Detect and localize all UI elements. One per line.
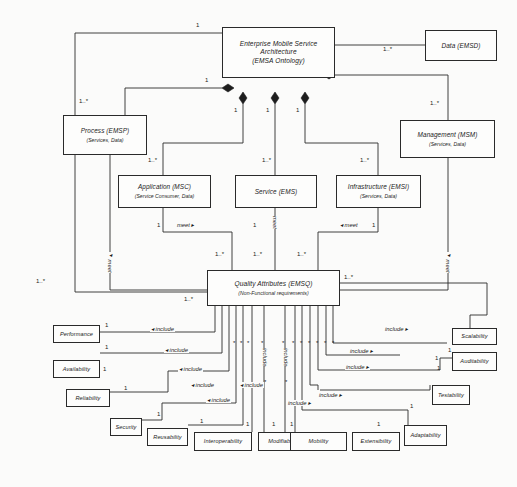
mult-quality-in-service: 1..* bbox=[253, 251, 262, 257]
mult-process-top: 1..* bbox=[79, 98, 88, 104]
assoc-include-reliability: ◂ include bbox=[178, 366, 203, 372]
node-security[interactable]: Security bbox=[110, 418, 142, 436]
mult-availability: 1 bbox=[105, 344, 108, 350]
mult-frame-left-bottom: 1..* bbox=[36, 278, 45, 284]
assoc-meet-service: meet bbox=[271, 216, 279, 229]
node-availability[interactable]: Availability bbox=[53, 360, 100, 378]
mult-performance: 1 bbox=[105, 322, 108, 328]
assoc-meet-infrastructure: ◂ meet bbox=[339, 222, 359, 228]
mult-root-left-2: 1 bbox=[205, 77, 208, 83]
node-data-emsd[interactable]: Data (EMSD) bbox=[425, 30, 497, 61]
assoc-meet-process: ◂ meet bbox=[106, 252, 114, 273]
node-reliability[interactable]: Reliability bbox=[66, 389, 110, 407]
node-infrastructure-emsi[interactable]: Infrastructure (EMSI) (Services, Data) bbox=[336, 175, 421, 208]
mult-star-1: * bbox=[233, 340, 235, 346]
node-reusability[interactable]: Reusability bbox=[147, 428, 188, 446]
node-title: Application (MSC) bbox=[138, 183, 191, 191]
mult-scalability: 1 bbox=[448, 347, 451, 353]
mult-extensibility: 1 bbox=[377, 421, 380, 427]
node-title: Security bbox=[115, 424, 136, 431]
mult-star-8: * bbox=[308, 340, 310, 346]
node-service-ems[interactable]: Service (EMS) bbox=[235, 175, 317, 208]
assoc-meet-application: meet ▸ bbox=[176, 222, 196, 228]
node-title: Management (MSM) bbox=[418, 131, 478, 139]
mult-root-top-left: 1 bbox=[196, 22, 199, 28]
mult-auditability: 1 bbox=[435, 355, 438, 361]
node-title: Auditability bbox=[460, 358, 488, 365]
node-emsa-root[interactable]: Enterprise Mobile Service Architecture (… bbox=[222, 27, 335, 78]
node-title: Process (EMSP) bbox=[81, 127, 130, 135]
mult-star-2: * bbox=[240, 340, 242, 346]
node-performance[interactable]: Performance bbox=[53, 325, 100, 343]
mult-star-9: * bbox=[316, 340, 318, 346]
mult-star-6: * bbox=[292, 340, 294, 346]
node-management-msm[interactable]: Management (MSM) (Services, Data) bbox=[400, 120, 495, 158]
node-subtitle: (Service Consumer, Data) bbox=[135, 193, 195, 200]
mult-infrastructure-top: 1..* bbox=[360, 157, 369, 163]
node-application-msc[interactable]: Application (MSC) (Service Consumer, Dat… bbox=[118, 175, 211, 208]
mult-security: 1 bbox=[157, 411, 160, 417]
node-title: Performance bbox=[60, 331, 93, 338]
assoc-include-reusability: ◂ include bbox=[206, 397, 231, 403]
node-subtitle: (EMSA Ontology) bbox=[252, 57, 305, 65]
mult-management-top: 1..* bbox=[430, 100, 439, 106]
mult-mobility: 1 bbox=[290, 421, 293, 427]
node-title: Extensibility bbox=[361, 438, 392, 445]
assoc-include-performance: ◂ include bbox=[150, 326, 175, 332]
mult-quality-left-bottom: 1..* bbox=[184, 296, 193, 302]
node-title: Interoperability bbox=[204, 438, 242, 445]
mult-star-5: * bbox=[282, 340, 284, 346]
mult-infra-meet-right: 1 bbox=[372, 222, 375, 228]
assoc-include-testability: include ▸ bbox=[345, 364, 370, 370]
assoc-include-scalability: include ▸ bbox=[384, 326, 409, 332]
node-title: Infrastructure (EMSI) bbox=[348, 183, 409, 191]
node-title: Service (EMS) bbox=[255, 188, 298, 196]
mult-root-down-infra: 1 bbox=[296, 107, 299, 113]
node-title: Scalability bbox=[461, 333, 487, 340]
node-auditability[interactable]: Auditability bbox=[452, 352, 497, 371]
node-subtitle: (Non-Functional requirements) bbox=[238, 290, 308, 297]
node-interoperability[interactable]: Interoperability bbox=[194, 432, 252, 451]
node-title: Mobility bbox=[309, 438, 329, 445]
node-adaptability[interactable]: Adaptability bbox=[404, 425, 447, 446]
mult-star-10: * bbox=[324, 340, 326, 346]
node-mobility[interactable]: Mobility bbox=[290, 432, 347, 451]
mult-reliability: 1 bbox=[124, 385, 127, 391]
node-quality-attributes-emsq[interactable]: Quality Attributes (EMSQ) (Non-Functiona… bbox=[207, 270, 340, 306]
mult-modifiability: 1 bbox=[272, 421, 275, 427]
mult-star-4: * bbox=[261, 340, 263, 346]
mult-star-12: * bbox=[264, 379, 266, 385]
node-title: Quality Attributes (EMSQ) bbox=[234, 280, 312, 288]
assoc-include-interoperability: ◂ include bbox=[239, 382, 264, 388]
node-title: Enterprise Mobile Service bbox=[240, 40, 318, 48]
mult-star-11: * bbox=[332, 340, 334, 346]
mult-star-3: * bbox=[247, 340, 249, 346]
assoc-include-auditability: include ▸ bbox=[349, 348, 374, 354]
assoc-meet-management: ◂ meet bbox=[444, 252, 452, 273]
mult-service-meet: 1 bbox=[253, 222, 256, 228]
mult-app-meet-left: 1 bbox=[157, 222, 160, 228]
node-subtitle: (Services, Data) bbox=[429, 141, 466, 148]
mult-reusability: 1 bbox=[200, 418, 203, 424]
mult-auditability-2: 1 bbox=[437, 365, 440, 371]
assoc-include-security: ◂ include bbox=[190, 382, 215, 388]
node-title: Reliability bbox=[75, 395, 100, 402]
node-title: Adaptability bbox=[410, 432, 440, 439]
assoc-include-mobility: include bbox=[282, 348, 290, 366]
node-testability[interactable]: Testability bbox=[432, 385, 470, 405]
node-title-2: Architecture bbox=[260, 48, 296, 56]
node-process-emsp[interactable]: Process (EMSP) (Services, Data) bbox=[63, 115, 147, 155]
mult-quality-right: 1..* bbox=[344, 274, 353, 280]
node-scalability[interactable]: Scalability bbox=[452, 328, 497, 345]
node-extensibility[interactable]: Extensibility bbox=[352, 432, 400, 451]
node-title: Reusability bbox=[153, 434, 181, 441]
node-title: Testability bbox=[438, 392, 464, 399]
mult-star-13: * bbox=[285, 379, 287, 385]
uml-diagram-canvas: .ln { stroke:#2b2b2b; stroke-width:0.9; … bbox=[0, 0, 517, 487]
mult-root-down-app: 1 bbox=[234, 107, 237, 113]
mult-interoperability: 1 bbox=[246, 421, 249, 427]
mult-star-7: * bbox=[300, 340, 302, 346]
mult-root-down-service: 1 bbox=[266, 107, 269, 113]
node-title: Data (EMSD) bbox=[441, 42, 480, 50]
assoc-include-adaptability: include ▸ bbox=[318, 392, 343, 398]
